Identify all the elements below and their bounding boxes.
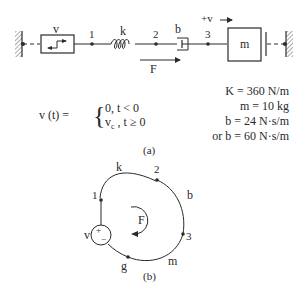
damper-label: b [175, 22, 181, 36]
m-label-b: m [168, 254, 178, 268]
node-3-label: 3 [205, 28, 211, 40]
caption-b: (b) [143, 270, 156, 282]
source-label: v [53, 22, 59, 36]
right-wall-hatch [286, 31, 293, 57]
b-label-b: b [187, 188, 193, 202]
equation-cases: 0, t < 0 vc , t ≥ 0 [105, 101, 145, 134]
edge-b [157, 180, 184, 234]
force-label: F [150, 62, 157, 76]
equation-brace: { [93, 101, 105, 131]
node-2-b [155, 178, 159, 182]
node-1-label-b: 1 [92, 189, 98, 201]
figure-a: v 1 k 2 b 3 m +v F [15, 12, 293, 76]
equation-lhs: v (t) = [39, 108, 69, 123]
equation-case-2: vc , t ≥ 0 [105, 115, 145, 134]
edge-g-to-source [108, 244, 128, 257]
step-arrow-right-icon [62, 39, 67, 43]
node-3 [206, 42, 210, 46]
param-k: K = 360 N/m [167, 84, 289, 99]
mass-label: m [240, 37, 250, 51]
node-1-label: 1 [89, 28, 95, 40]
equation-case-1: 0, t < 0 [105, 101, 145, 115]
caption-a: (a) [143, 144, 155, 156]
figure-b: k 2 b 1 F 3 v + − g m [84, 160, 193, 273]
node-2 [154, 42, 158, 46]
velocity-ref-label: +v [201, 12, 213, 24]
param-b2: or b = 60 N·s/m [167, 129, 289, 144]
left-wall-hatch [15, 31, 22, 57]
node-3-label-b: 3 [186, 230, 192, 242]
param-b1: b = 24 N·s/m [167, 114, 289, 129]
ground-label-b: g [121, 259, 127, 273]
source-label-b: v [84, 228, 90, 242]
node-2-label-b: 2 [154, 163, 160, 175]
force-label-b: F [138, 213, 145, 227]
node-1 [90, 42, 94, 46]
node-2-label: 2 [153, 28, 159, 40]
edge-k [100, 173, 156, 198]
minus-sign: − [101, 234, 106, 244]
node-1-b [99, 198, 103, 202]
step-arrow-left-icon [47, 46, 52, 50]
spring-label: k [120, 24, 126, 38]
k-label-b: k [116, 160, 122, 174]
parameter-list: K = 360 N/m m = 10 kg b = 24 N·s/m or b … [167, 84, 289, 144]
node-3-b [181, 232, 185, 236]
param-m: m = 10 kg [167, 99, 289, 114]
spring-icon [111, 40, 129, 49]
